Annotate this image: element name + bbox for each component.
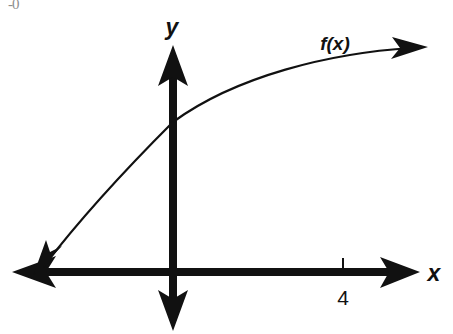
tick-label-4: 4: [337, 286, 349, 309]
x-axis-label: x: [426, 260, 442, 286]
curve-right-arrowhead: [391, 37, 428, 59]
x-axis-tick-4: 4: [337, 258, 349, 309]
y-axis: [158, 45, 188, 331]
function-curve: [33, 37, 428, 276]
function-graph-figure: 4 y x f(x): [0, 0, 453, 334]
x-axis: [12, 256, 420, 288]
curve-path-fx: [44, 48, 412, 266]
y-axis-label: y: [165, 14, 180, 40]
curve-label-fx: f(x): [320, 33, 350, 54]
